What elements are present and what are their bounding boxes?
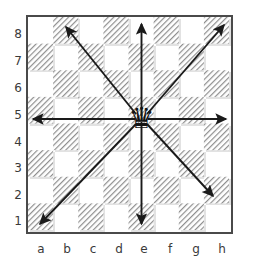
board-square-e5 bbox=[131, 99, 156, 126]
board-square-f4 bbox=[156, 126, 181, 153]
board-square-h3 bbox=[206, 152, 231, 179]
board-square-d1 bbox=[105, 205, 130, 232]
file-label-b: b bbox=[54, 243, 80, 255]
board-square-b8 bbox=[55, 19, 80, 46]
board-square-h5 bbox=[206, 99, 231, 126]
board-square-c5 bbox=[80, 99, 105, 126]
board-square-h7 bbox=[206, 46, 231, 73]
rank-label-7: 7 bbox=[2, 55, 22, 67]
board-square-e4 bbox=[131, 126, 156, 153]
board-square-f3 bbox=[156, 152, 181, 179]
board-square-g2 bbox=[181, 179, 206, 206]
chess-board bbox=[26, 15, 233, 234]
rank-label-1: 1 bbox=[2, 215, 22, 227]
rank-label-4: 4 bbox=[2, 136, 22, 148]
board-square-g3 bbox=[181, 152, 206, 179]
board-square-d4 bbox=[105, 126, 130, 153]
file-label-e: e bbox=[131, 243, 157, 255]
board-square-h8 bbox=[206, 19, 231, 46]
board-square-c1 bbox=[80, 205, 105, 232]
board-square-e2 bbox=[131, 179, 156, 206]
board-square-h2 bbox=[206, 179, 231, 206]
board-square-a2 bbox=[30, 179, 55, 206]
board-square-a7 bbox=[30, 46, 55, 73]
board-square-g7 bbox=[181, 46, 206, 73]
board-square-g6 bbox=[181, 72, 206, 99]
board-square-a6 bbox=[30, 72, 55, 99]
board-square-d8 bbox=[105, 19, 130, 46]
board-square-c4 bbox=[80, 126, 105, 153]
board-square-h1 bbox=[206, 205, 231, 232]
board-squares bbox=[30, 19, 231, 232]
board-square-e3 bbox=[131, 152, 156, 179]
rank-label-8: 8 bbox=[2, 28, 22, 40]
board-square-e6 bbox=[131, 72, 156, 99]
board-square-d3 bbox=[105, 152, 130, 179]
board-square-c7 bbox=[80, 46, 105, 73]
board-square-g8 bbox=[181, 19, 206, 46]
board-square-b7 bbox=[55, 46, 80, 73]
file-label-c: c bbox=[80, 243, 106, 255]
board-square-b5 bbox=[55, 99, 80, 126]
board-square-f8 bbox=[156, 19, 181, 46]
rank-label-3: 3 bbox=[2, 162, 22, 174]
file-label-f: f bbox=[157, 243, 183, 255]
board-square-d7 bbox=[105, 46, 130, 73]
board-square-h6 bbox=[206, 72, 231, 99]
board-square-g4 bbox=[181, 126, 206, 153]
board-square-h4 bbox=[206, 126, 231, 153]
board-square-e1 bbox=[131, 205, 156, 232]
board-square-c8 bbox=[80, 19, 105, 46]
board-square-g5 bbox=[181, 99, 206, 126]
board-square-d6 bbox=[105, 72, 130, 99]
file-label-a: a bbox=[28, 243, 54, 255]
board-square-f6 bbox=[156, 72, 181, 99]
file-label-h: h bbox=[209, 243, 235, 255]
board-square-a4 bbox=[30, 126, 55, 153]
board-square-c6 bbox=[80, 72, 105, 99]
board-square-b3 bbox=[55, 152, 80, 179]
file-label-g: g bbox=[183, 243, 209, 255]
file-label-d: d bbox=[106, 243, 132, 255]
board-square-a1 bbox=[30, 205, 55, 232]
chess-diagram: 8 7 6 5 4 3 2 1 a b c d e f g h bbox=[0, 0, 253, 266]
board-square-f7 bbox=[156, 46, 181, 73]
board-square-f1 bbox=[156, 205, 181, 232]
board-square-e7 bbox=[131, 46, 156, 73]
board-square-b4 bbox=[55, 126, 80, 153]
board-square-d5 bbox=[105, 99, 130, 126]
board-square-a3 bbox=[30, 152, 55, 179]
board-square-c3 bbox=[80, 152, 105, 179]
board-square-b6 bbox=[55, 72, 80, 99]
board-square-g1 bbox=[181, 205, 206, 232]
rank-label-5: 5 bbox=[2, 109, 22, 121]
board-square-b2 bbox=[55, 179, 80, 206]
board-square-b1 bbox=[55, 205, 80, 232]
rank-label-6: 6 bbox=[2, 82, 22, 94]
board-square-e8 bbox=[131, 19, 156, 46]
board-square-d2 bbox=[105, 179, 130, 206]
board-square-f2 bbox=[156, 179, 181, 206]
board-square-a8 bbox=[30, 19, 55, 46]
board-square-f5 bbox=[156, 99, 181, 126]
board-square-c2 bbox=[80, 179, 105, 206]
rank-label-2: 2 bbox=[2, 189, 22, 201]
board-square-a5 bbox=[30, 99, 55, 126]
